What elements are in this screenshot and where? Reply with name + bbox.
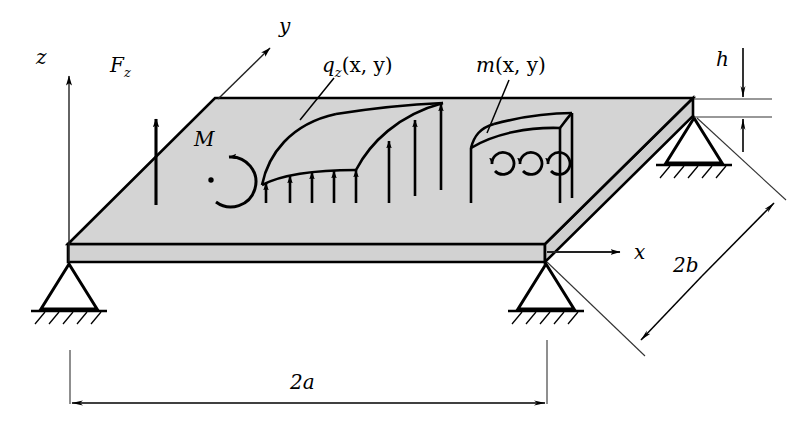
axis-y-line — [218, 48, 270, 99]
support-front-right — [508, 264, 584, 324]
qz-label: qz(x, y) — [322, 53, 393, 80]
plate-front-face — [68, 244, 545, 262]
moment-M-label: M — [193, 127, 215, 151]
dimension-2b-line-upper — [702, 203, 774, 276]
dimension-2b-line-lower — [641, 276, 702, 340]
dimension-2a-label: 2a — [289, 370, 315, 394]
support-front-left-triangle — [41, 264, 97, 309]
plate-load-diagram: z y x Fz M — [0, 0, 807, 427]
figure-container: z y x Fz M — [0, 0, 807, 427]
dimension-2b-label: 2b — [672, 253, 699, 277]
moment-M-center-dot — [208, 177, 213, 182]
support-front-right-hatching — [512, 312, 578, 324]
axis-y-label: y — [278, 14, 291, 38]
support-front-left — [31, 264, 107, 324]
support-front-right-triangle — [518, 264, 574, 309]
point-force-label: Fz — [109, 53, 131, 80]
axis-x-label: x — [634, 240, 645, 264]
support-front-left-hatching — [35, 312, 101, 324]
dimension-h-label: h — [716, 47, 729, 71]
plate-top-surface — [68, 98, 693, 244]
axis-y — [218, 48, 270, 99]
m-label: m(x, y) — [476, 53, 546, 77]
plate-solid — [68, 98, 693, 262]
support-back-right-hatching — [660, 166, 726, 178]
axis-z-label: z — [35, 45, 47, 69]
